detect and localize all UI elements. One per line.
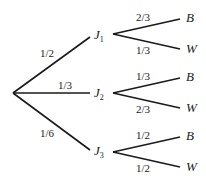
leaf-j3-w: W bbox=[186, 159, 198, 174]
prob-root-j3: 1/6 bbox=[40, 127, 55, 139]
prob-j2-b: 1/3 bbox=[136, 70, 151, 82]
prob-j1-w: 1/3 bbox=[136, 44, 151, 56]
node-j3: J3 bbox=[94, 143, 104, 160]
prob-j3-b: 1/2 bbox=[136, 129, 150, 141]
node-j2: J2 bbox=[94, 85, 104, 102]
prob-root-j2: 1/3 bbox=[58, 79, 73, 91]
prob-root-j1: 1/2 bbox=[40, 47, 54, 59]
prob-j1-b: 2/3 bbox=[136, 11, 151, 23]
leaf-j2-b: B bbox=[186, 69, 194, 84]
node-j1: J1 bbox=[94, 27, 104, 44]
leaf-j1-w: W bbox=[186, 41, 198, 56]
edge-root-j1 bbox=[13, 37, 90, 93]
prob-j2-w: 2/3 bbox=[136, 103, 151, 115]
edge-root-j3 bbox=[13, 93, 90, 150]
probability-tree: 1/2 1/3 1/6 J1 J2 J3 2/3 1/3 B W 1/3 2/3… bbox=[0, 0, 206, 184]
leaf-j2-w: W bbox=[186, 100, 198, 115]
leaf-j3-b: B bbox=[186, 128, 194, 143]
leaf-j1-b: B bbox=[186, 10, 194, 25]
prob-j3-w: 1/2 bbox=[136, 162, 150, 174]
